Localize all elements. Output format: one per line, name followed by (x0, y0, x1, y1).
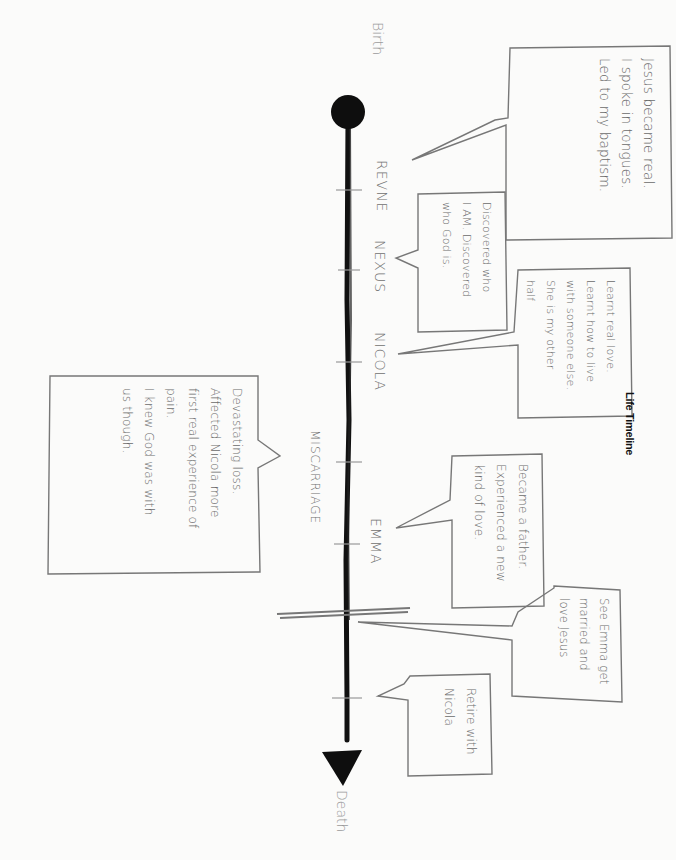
death-marker-icon (322, 750, 362, 786)
diagram-title: Life Timeline (624, 392, 636, 455)
end-label: Death (334, 790, 350, 832)
milestone-nexus: NEXUS (372, 240, 388, 293)
timeline-axis (346, 120, 351, 740)
life-timeline-diagram: Birth Death REVNE NEXUS NICOLA MISCARRIA… (0, 0, 676, 860)
callout-emma-text: Became a father. Experienced a new kind … (468, 464, 534, 582)
crossed-marker (277, 608, 410, 618)
callout-nexus-text: Discovered who I AM. Discovered who God … (436, 202, 496, 297)
callout-married-text: See Emma get married and love Jesus (554, 598, 614, 684)
callout-revne-text: Jesus became real. I spoke in tongues. L… (594, 58, 660, 192)
start-label: Birth (370, 22, 386, 55)
callout-nicola-text: Learnt real love. Learnt how to live wit… (520, 280, 620, 390)
milestone-nicola: NICOLA (372, 332, 388, 391)
callout-retire-text: Retire with Nicola (438, 688, 482, 755)
milestone-revne: REVNE (374, 160, 390, 212)
birth-marker-icon (331, 95, 365, 129)
milestone-emma: EMMA (368, 518, 384, 565)
callout-miscarriage-text: Devastating loss. Affected Nicola more f… (116, 388, 248, 529)
milestone-miscarriage: MISCARRIAGE (308, 430, 322, 524)
